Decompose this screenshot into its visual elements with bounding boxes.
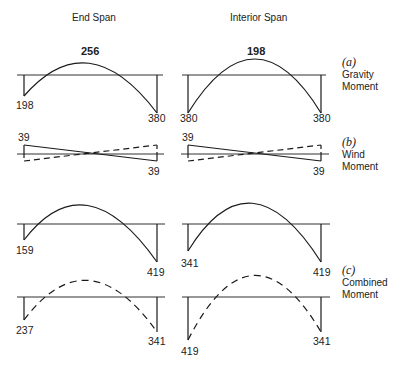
combined-solid-end-left-value: 159 <box>16 245 34 256</box>
combined-solid-end-span-diagram <box>17 205 165 262</box>
combined-dashed-interior-span-diagram <box>182 275 330 340</box>
wind-interior-span-diagram <box>181 145 329 161</box>
wind-label-2: Moment <box>342 161 378 172</box>
gravity-row-label: (a) Gravity Moment <box>342 56 378 93</box>
combined-dashed-interior-right-value: 341 <box>313 336 331 347</box>
wind-end-left-value: 39 <box>18 132 30 143</box>
gravity-tag: (a) <box>342 55 356 69</box>
combined-dashed-end-right-value: 341 <box>148 336 166 347</box>
combined-dashed-end-left-value: 237 <box>16 325 34 336</box>
combined-dashed-interior-left-value: 419 <box>181 346 199 357</box>
gravity-label-2: Moment <box>342 81 378 92</box>
wind-label-1: Wind <box>342 149 365 160</box>
gravity-end-left-value: 198 <box>16 100 34 111</box>
gravity-end-span-diagram <box>17 63 163 113</box>
moment-diagrams <box>0 0 399 369</box>
combined-solid-interior-span-diagram <box>182 203 330 262</box>
wind-end-right-value: 39 <box>148 166 160 177</box>
gravity-interior-span-diagram <box>182 59 326 113</box>
gravity-interior-mid-value: 198 <box>247 46 265 57</box>
combined-tag: (c) <box>342 263 355 277</box>
combined-solid-end-right-value: 419 <box>147 267 165 278</box>
wind-interior-left-value: 39 <box>182 132 194 143</box>
combined-dashed-end-span-diagram <box>17 280 165 332</box>
gravity-interior-right-value: 380 <box>313 113 331 124</box>
gravity-label-1: Gravity <box>342 69 374 80</box>
wind-row-label: (b) Wind Moment <box>342 136 378 173</box>
combined-label-2: Moment <box>342 289 378 300</box>
combined-solid-interior-left-value: 341 <box>181 258 199 269</box>
wind-interior-right-value: 39 <box>313 166 325 177</box>
wind-end-span-diagram <box>17 145 164 161</box>
combined-row-label: (c) Combined Moment <box>342 264 388 301</box>
combined-solid-interior-right-value: 419 <box>313 267 331 278</box>
gravity-interior-left-value: 380 <box>180 113 198 124</box>
gravity-end-right-value: 380 <box>148 113 166 124</box>
combined-label-1: Combined <box>342 277 388 288</box>
wind-tag: (b) <box>342 135 356 149</box>
gravity-end-mid-value: 256 <box>81 46 99 57</box>
